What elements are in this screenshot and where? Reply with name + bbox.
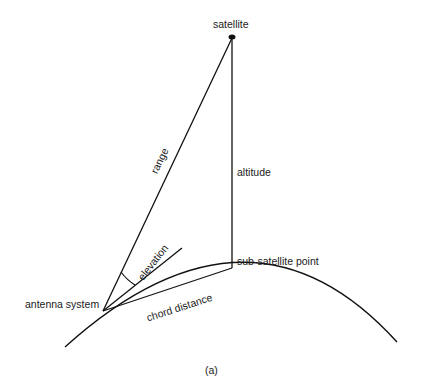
earth-surface-arc [65, 262, 397, 347]
diagram-lines [0, 0, 425, 390]
range-line [103, 38, 232, 311]
altitude-label: altitude [237, 166, 271, 178]
satellite-icon [229, 35, 236, 40]
antenna-system-label: antenna system [25, 298, 99, 310]
elevation-angle-arc [121, 272, 135, 285]
sub-satellite-point-label: sub-satellite point [237, 255, 319, 267]
satellite-label: satellite [213, 18, 249, 30]
satellite-geometry-diagram: satellite range altitude elevation sub-s… [0, 0, 425, 390]
figure-caption: (a) [205, 364, 218, 376]
